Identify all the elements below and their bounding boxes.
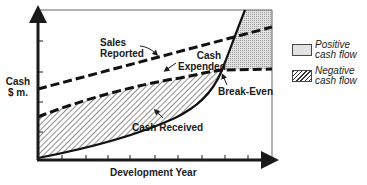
break-even-label: Break-Even [218, 86, 273, 97]
legend-item-negative: Negative cash flow [292, 66, 357, 86]
y-axis-label-line1: Cash [3, 76, 33, 87]
cash-expended-label-line2: Expended [178, 61, 226, 72]
legend-item-positive: Positive cash flow [292, 40, 357, 60]
legend-label-positive: Positive cash flow [315, 40, 357, 60]
cash-expended-label: Cash Expended [178, 50, 226, 72]
legend-positive-line2: cash flow [315, 50, 357, 60]
sales-reported-label-line1: Sales [100, 37, 144, 48]
negative-swatch-icon [292, 70, 312, 82]
y-axis-label-line2: $ m. [3, 87, 33, 98]
x-axis-label: Development Year [110, 167, 197, 178]
legend-negative-line2: cash flow [315, 76, 357, 86]
positive-cash-flow-region [222, 10, 272, 70]
y-axis-label: Cash $ m. [3, 76, 33, 98]
cash-received-label: Cash Received [132, 122, 203, 133]
sales-reported-label: Sales Reported [100, 37, 144, 59]
positive-swatch-icon [292, 44, 312, 56]
cash-expended-label-line1: Cash [178, 50, 226, 61]
legend-label-negative: Negative cash flow [315, 66, 357, 86]
sales-reported-label-line2: Reported [100, 48, 144, 59]
chart-canvas [0, 0, 367, 185]
